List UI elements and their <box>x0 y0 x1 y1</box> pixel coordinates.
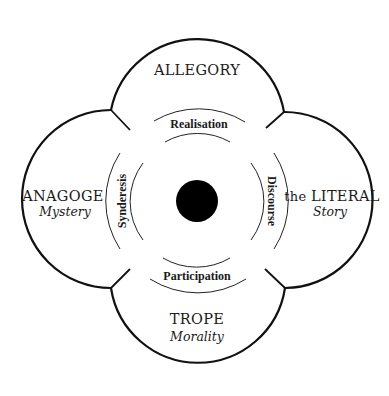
lobe-right-title: the LITERAL <box>284 188 379 204</box>
four-lobed-diagram: ALLEGORY ANAGOGE Mystery the LITERAL Sto… <box>0 0 389 396</box>
spoke-top-right <box>266 112 284 128</box>
lobe-bottom-title: TROPE <box>170 311 224 327</box>
lobe-right-title-prefix: the <box>284 189 311 204</box>
lobe-right-title-main: LITERAL <box>311 188 380 204</box>
arc-bottom-inner <box>163 258 230 267</box>
lobe-left-subtitle: Mystery <box>38 204 92 219</box>
spoke-bottom-right <box>265 269 285 288</box>
arc-left-inner <box>130 163 143 240</box>
ring-label-right: Discourse <box>265 176 279 227</box>
ring-label-left: Synderesis <box>115 173 129 228</box>
lobe-bottom-subtitle: Morality <box>169 329 225 344</box>
arc-top-inner <box>165 133 230 142</box>
lobe-right-subtitle: Story <box>313 204 348 219</box>
lobe-top-title: ALLEGORY <box>153 62 240 78</box>
center-dot <box>176 180 218 222</box>
ring-label-bottom: Participation <box>163 269 231 283</box>
spoke-top-left <box>111 110 130 130</box>
spoke-bottom-left <box>111 269 130 288</box>
arc-right-inner <box>251 163 264 240</box>
lobe-left-title: ANAGOGE <box>21 188 103 204</box>
ring-label-top: Realisation <box>170 117 228 131</box>
